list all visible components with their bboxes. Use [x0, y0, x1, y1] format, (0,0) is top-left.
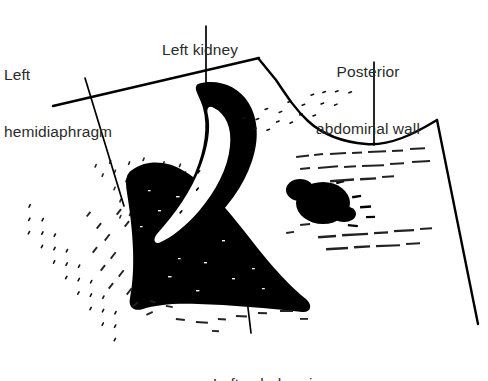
label-left-hemidiaphragm-line1: Left [4, 65, 112, 84]
sector-right-edge [437, 120, 478, 324]
label-left-kidney: Left kidney [162, 2, 238, 78]
label-left-subphrenic-collection-line1: Left subphrenic [213, 374, 321, 381]
label-left-subphrenic-collection: Left subphrenic collection [213, 336, 321, 381]
label-posterior-abdominal-wall-line1: Posterior [316, 62, 420, 81]
echogenic-clump [286, 179, 375, 227]
left-border-speckle [0, 204, 153, 342]
label-left-hemidiaphragm-line2: hemidiaphragm [4, 122, 112, 141]
label-posterior-abdominal-wall: Posterior abdominal wall [316, 24, 420, 157]
label-left-kidney-line1: Left kidney [162, 40, 238, 59]
label-posterior-abdominal-wall-line2: abdominal wall [316, 119, 420, 138]
label-left-hemidiaphragm: Left hemidiaphragm [4, 27, 112, 160]
